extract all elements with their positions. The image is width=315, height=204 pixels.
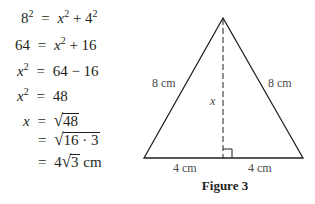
- altitude-label: x: [210, 94, 215, 109]
- right-angle-marker: [223, 149, 232, 158]
- left-side-label: 8 cm: [152, 76, 176, 91]
- right-side-label: 8 cm: [268, 76, 292, 91]
- figure-caption: Figure 3: [190, 178, 260, 194]
- base-left-label: 4 cm: [173, 161, 197, 176]
- triangle-figure: 8 cm 8 cm x 4 cm 4 cm Figure 3: [0, 0, 315, 204]
- base-right-label: 4 cm: [248, 161, 272, 176]
